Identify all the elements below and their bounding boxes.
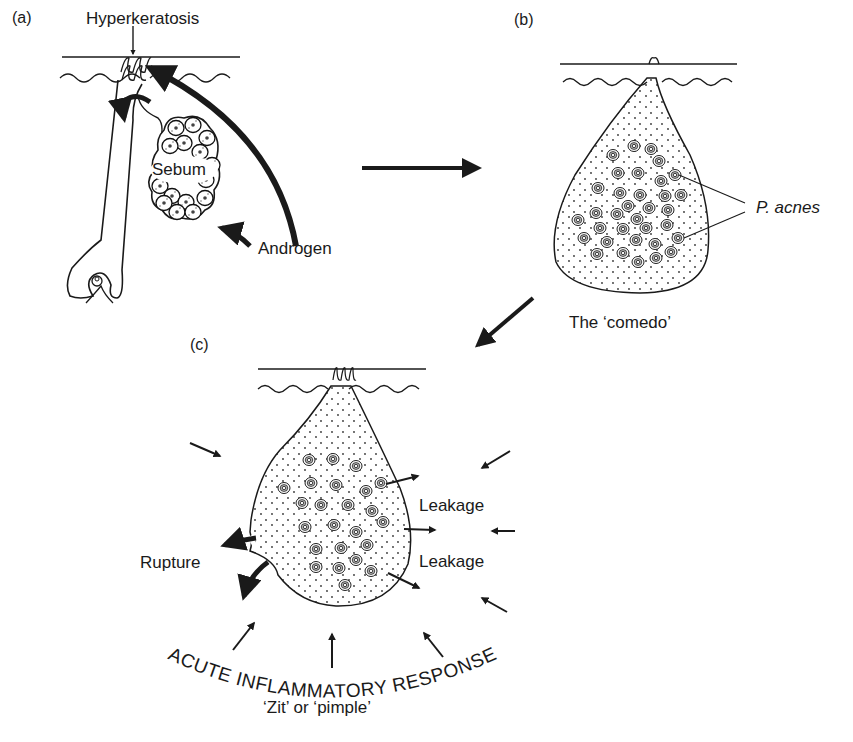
zit-or-pimple-caption: ‘Zit’ or ‘pimple’ [263, 699, 371, 716]
comedo-caption: The ‘comedo’ [569, 314, 671, 331]
panel-b-label: (b) [514, 12, 534, 28]
flow-arrow-b-to-c [478, 298, 533, 345]
leakage-label-upper: Leakage [419, 497, 484, 514]
leakage-arrow-2 [404, 529, 435, 530]
leakage-label-lower: Leakage [419, 553, 484, 570]
acne-pathogenesis-diagram: ACUTE INFLAMMATORY RESPONSE (a) Hyperker… [0, 0, 853, 742]
panel-c-inflamed-comedo: ACUTE INFLAMMATORY RESPONSE [150, 368, 515, 702]
panel-b-comedo [554, 58, 745, 293]
p-acnes-label: P. acnes [756, 199, 820, 216]
panel-a-label: (a) [12, 10, 32, 26]
panel-c-label: (c) [190, 337, 209, 353]
diagram-artwork: ACUTE INFLAMMATORY RESPONSE [0, 0, 853, 742]
comedo-sac [554, 78, 708, 293]
hair-follicle [67, 80, 142, 298]
rupture-arrow-down [244, 562, 268, 596]
hyperkeratosis-label: Hyperkeratosis [86, 10, 199, 27]
androgen-to-gland-arrow [222, 228, 250, 246]
sebum-flow-arrow [123, 96, 150, 118]
ruptured-comedo-sac [250, 386, 411, 606]
androgen-label: Androgen [258, 240, 332, 257]
rupture-label: Rupture [140, 554, 200, 571]
sebum-label: Sebum [152, 161, 206, 178]
